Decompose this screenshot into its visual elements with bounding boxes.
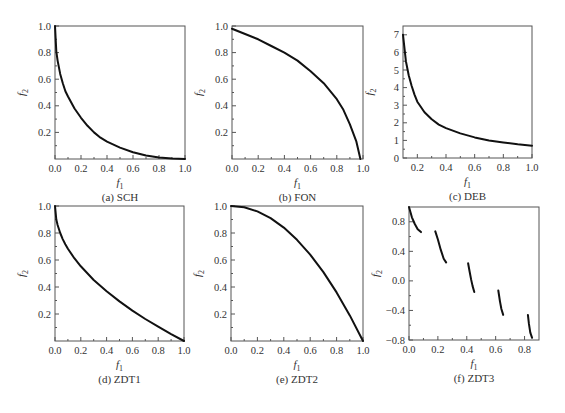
pareto-front-curve (409, 207, 421, 232)
x-tick-label: 0.0 (48, 163, 61, 174)
y-tick-label: 0.8 (392, 216, 405, 227)
x-tick-label: 0.4 (277, 345, 291, 356)
x-tick-label: 0.8 (518, 344, 531, 355)
y-tick-label: 0.2 (215, 127, 228, 138)
subplot-c: 0.20.40.60.81.001234567f1f2(c) DEB (363, 26, 539, 203)
subplot-caption: (b) FON (279, 191, 317, 204)
pareto-front-curve (55, 206, 184, 341)
subplot-f: 0.00.20.40.60.8−0.8−0.40.00.40.8f1f2(f) … (369, 207, 539, 385)
subplot-a: 0.00.20.40.60.81.00.20.40.60.81.0f1f2(a)… (15, 21, 192, 205)
subplot-caption: (c) DEB (449, 190, 486, 203)
x-tick-label: 1.0 (177, 345, 190, 356)
x-axis-label: f1 (116, 358, 123, 373)
x-axis-label: f1 (294, 176, 301, 191)
y-tick-label: 0.4 (214, 282, 228, 293)
y-tick-label: 0.4 (38, 282, 52, 293)
x-tick-label: 0.2 (431, 344, 444, 355)
x-tick-label: 1.0 (525, 162, 538, 173)
y-tick-label: 0.8 (214, 228, 227, 239)
x-axis: 0.00.20.40.60.81.0 (48, 337, 190, 356)
y-tick-label: 1.0 (215, 21, 228, 32)
y-tick-label: 0.6 (214, 255, 227, 266)
y-axis-label: f2 (15, 89, 30, 96)
x-tick-label: 0.6 (126, 163, 139, 174)
x-tick-label: 0.6 (489, 344, 502, 355)
x-tick-label: 0.6 (304, 163, 317, 174)
x-axis-label: f1 (116, 176, 123, 191)
y-tick-label: 0.4 (392, 246, 406, 257)
x-tick-label: 0.2 (411, 162, 424, 173)
y-axis-label: f2 (15, 270, 30, 277)
axes-frame (409, 207, 539, 340)
x-tick-label: 0.0 (402, 344, 415, 355)
subplot-caption: (d) ZDT1 (98, 373, 140, 386)
subplot-caption: (a) SCH (102, 191, 138, 204)
subplot-d: 0.00.20.40.60.81.00.20.40.60.81.0f1f2(d)… (15, 201, 191, 387)
x-axis: 0.00.20.40.60.81.0 (225, 155, 369, 174)
y-tick-label: 1 (394, 135, 399, 146)
x-axis-label: f1 (470, 357, 477, 372)
x-tick-label: 0.6 (126, 345, 139, 356)
x-tick-label: 0.2 (74, 163, 87, 174)
x-tick-label: 0.0 (48, 345, 61, 356)
subplot-e: 0.00.20.40.60.81.00.20.40.60.81.0f1f2(e)… (191, 201, 370, 387)
subplot-caption: (e) ZDT2 (276, 373, 318, 386)
y-axis-label: f2 (192, 89, 207, 96)
pareto-front-curve (435, 231, 446, 262)
y-tick-label: −0.4 (386, 305, 406, 316)
x-tick-label: 0.8 (330, 163, 343, 174)
x-tick-label: 0.6 (304, 345, 317, 356)
x-tick-label: 0.4 (439, 162, 453, 173)
x-tick-label: 0.4 (100, 163, 114, 174)
x-tick-label: 0.0 (224, 345, 237, 356)
x-tick-label: 0.8 (497, 162, 510, 173)
y-tick-label: 6 (394, 47, 399, 58)
y-axis-label: f2 (369, 270, 384, 277)
y-tick-label: 4 (394, 82, 400, 93)
x-axis-label: f1 (464, 175, 471, 190)
y-tick-label: 0.2 (38, 127, 51, 138)
y-tick-label: 0.4 (215, 100, 229, 111)
x-tick-label: 1.0 (356, 345, 369, 356)
y-tick-label: 5 (394, 65, 399, 76)
x-tick-label: 0.8 (152, 345, 165, 356)
x-tick-label: 0.2 (251, 345, 264, 356)
y-tick-label: 2 (394, 117, 399, 128)
x-tick-label: 0.4 (100, 345, 114, 356)
y-tick-label: 0.8 (38, 47, 51, 58)
x-tick-label: 0.6 (468, 162, 481, 173)
axes-frame (232, 26, 363, 159)
y-axis-label: f2 (363, 88, 378, 95)
y-tick-label: 0.8 (38, 228, 51, 239)
y-tick-label: 0.2 (38, 309, 51, 320)
pareto-front-curve (498, 291, 503, 315)
x-axis: 0.00.20.40.60.81.0 (224, 337, 369, 356)
x-tick-label: 0.2 (252, 163, 265, 174)
x-tick-label: 0.4 (460, 344, 474, 355)
y-tick-label: 0.4 (38, 100, 52, 111)
x-tick-label: 0.2 (74, 345, 87, 356)
figure-canvas: 0.00.20.40.60.81.00.20.40.60.81.0f1f2(a)… (0, 0, 565, 413)
y-tick-label: 0.0 (392, 275, 405, 286)
pareto-front-curve (231, 206, 363, 341)
x-axis: 0.20.40.60.81.0 (411, 154, 539, 173)
y-tick-label: 0.8 (215, 47, 228, 58)
x-tick-label: 1.0 (356, 163, 369, 174)
x-axis: 0.00.20.40.60.8 (402, 336, 531, 355)
pareto-front-curve (403, 35, 532, 146)
y-tick-label: 1.0 (38, 21, 51, 32)
pareto-front-curve (528, 315, 532, 338)
y-axis: 0.20.40.60.81.0 (215, 21, 236, 146)
figure-grid: 0.00.20.40.60.81.00.20.40.60.81.0f1f2(a)… (0, 0, 565, 413)
y-tick-label: 0.2 (214, 309, 227, 320)
pareto-front-curve (232, 29, 360, 159)
y-tick-label: 0.6 (215, 74, 228, 85)
y-tick-label: 1.0 (38, 201, 51, 212)
y-axis-label: f2 (191, 270, 206, 277)
axes-frame (403, 26, 532, 158)
y-tick-label: 1.0 (214, 201, 227, 212)
x-tick-label: 0.8 (330, 345, 343, 356)
x-axis-label: f1 (293, 358, 300, 373)
y-tick-label: 3 (394, 100, 399, 111)
x-tick-label: 0.0 (225, 163, 238, 174)
